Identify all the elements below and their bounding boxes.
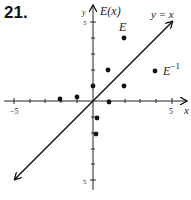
identity-line-label: y = x — [150, 8, 174, 20]
y-tick-neg5: 5 — [83, 178, 87, 186]
x-tick-5: 5 — [169, 107, 173, 116]
y-axis-letter: y — [81, 8, 86, 17]
y-axis: 5 5 y E(x) — [81, 4, 121, 190]
x-axis-label: x — [183, 104, 189, 116]
x-tick-neg5: −5 — [10, 107, 19, 116]
y-axis-label: E(x) — [99, 4, 121, 18]
x-axis: −5 5 x — [4, 98, 189, 116]
scatter-chart: −5 5 x 5 5 y E(x) y = x E E−1 — [0, 0, 191, 200]
identity-line — [93, 22, 172, 101]
E-label: E — [118, 20, 127, 34]
y-tick-5: 5 — [83, 19, 87, 27]
E-inverse-label: E−1 — [162, 61, 180, 78]
series-E — [91, 36, 127, 89]
series-E-inverse — [58, 69, 158, 137]
